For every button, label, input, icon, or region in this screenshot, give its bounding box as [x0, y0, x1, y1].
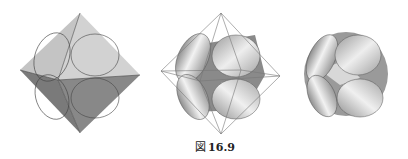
cone-surface	[335, 35, 381, 75]
lower-right-face	[58, 75, 140, 133]
wireframe-octahedron-with-cones	[161, 13, 280, 134]
cone-surface	[337, 79, 383, 117]
figure-caption: 図16.9	[180, 138, 250, 154]
rounded-solid	[300, 30, 388, 122]
octahedron-with-inscribed-circles	[20, 13, 140, 133]
caption-prefix: 図	[195, 141, 206, 154]
caption-number: 16.9	[208, 141, 235, 154]
figure-canvas	[0, 0, 408, 159]
